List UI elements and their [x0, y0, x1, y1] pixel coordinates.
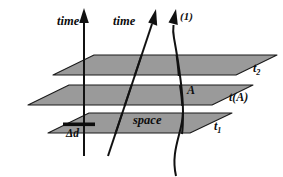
delta-d-scale-bar	[63, 123, 95, 127]
label-plane-t1-subscript: 1	[217, 126, 221, 135]
delta-d-bar	[63, 123, 95, 127]
label-space: space	[133, 114, 161, 127]
crossing-w3-t1	[182, 113, 183, 134]
label-plane-t1: t1	[214, 120, 221, 136]
label-plane-ta: t(A)	[229, 91, 248, 103]
label-event-a: A	[187, 84, 195, 96]
label-branch-one: (1)	[180, 11, 193, 22]
plane-tA	[28, 85, 253, 105]
worldline-3-arrowhead	[169, 9, 178, 25]
label-plane-t2-subscript: 2	[256, 68, 260, 77]
worldline-1-arrowhead	[79, 8, 89, 23]
label-time-middle: time	[113, 15, 135, 28]
plane-t2-surface	[53, 55, 277, 75]
label-delta-d: Δd	[66, 128, 79, 140]
plane-t2	[53, 55, 277, 75]
plane-tA-surface	[28, 85, 253, 105]
figure-root: time time (1) space A t2 t(A) t1 Δd	[0, 0, 283, 177]
figure-canvas	[0, 0, 283, 177]
worldline-2-arrowhead	[148, 9, 157, 26]
label-plane-t2: t2	[253, 62, 260, 78]
label-time-left: time	[57, 15, 79, 28]
